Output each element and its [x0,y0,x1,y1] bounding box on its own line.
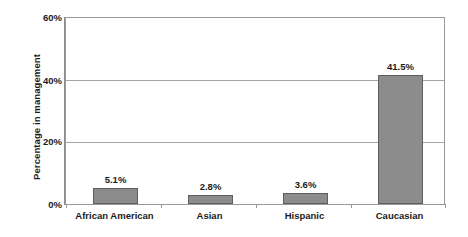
bar-value-african-american: 5.1% [83,174,148,186]
x-tick-0 [66,204,67,208]
y-tick-label-60: 60% [22,12,62,23]
y-tick-label-40: 40% [22,75,62,86]
x-label-caucasian: Caucasian [352,209,447,222]
bar-caucasian [378,75,423,204]
x-tick-4 [445,204,446,208]
plot-area: 5.1% 2.8% 3.6% 41.5% [65,17,445,205]
x-tick-2 [256,204,257,208]
bar-value-caucasian: 41.5% [368,61,433,73]
x-axis-category-labels: African American Asian Hispanic Caucasia… [65,209,445,225]
x-label-hispanic: Hispanic [257,209,352,222]
x-label-african-american: African American [67,209,162,222]
bar-african-american [93,188,138,204]
x-tick-1 [161,204,162,208]
bar-hispanic [283,193,328,204]
x-label-asian: Asian [162,209,257,222]
y-tick-label-0: 0% [22,199,62,210]
bar-chart: Percentage in management 60% 40% 20% 0% … [0,0,468,237]
y-axis-tick-labels: 60% 40% 20% 0% [18,0,62,237]
bar-value-asian: 2.8% [178,181,243,193]
bar-value-hispanic: 3.6% [273,179,338,191]
y-tick-label-20: 20% [22,136,62,147]
x-tick-3 [351,204,352,208]
bar-asian [188,195,233,204]
